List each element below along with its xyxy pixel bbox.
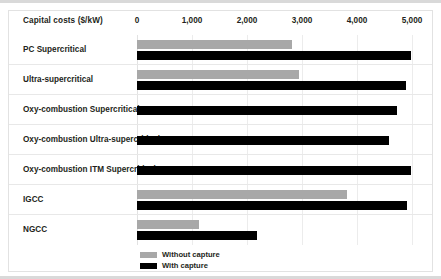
legend-swatch-icon [140, 263, 157, 269]
chart-row: Ultra-supercritical [9, 65, 432, 95]
chart-row: NGCC [9, 215, 432, 245]
row-bars [9, 185, 432, 214]
chart-row: Oxy-combustion Supercritical [9, 95, 432, 125]
capital-costs-bar-chart: Capital costs ($/kW) 01,0002,0003,0004,0… [0, 0, 441, 279]
x-tick-label: 2,000 [237, 16, 258, 25]
x-tick-label: 3,000 [292, 16, 313, 25]
legend-label: Without capture [162, 250, 220, 259]
chart-header: Capital costs ($/kW) 01,0002,0003,0004,0… [9, 11, 432, 35]
chart-legend: Without capture With capture [140, 250, 220, 270]
bar-without-capture [137, 220, 199, 229]
bar-without-capture [137, 40, 292, 49]
legend-item-without-capture: Without capture [140, 250, 220, 259]
bar-with-capture [137, 231, 257, 240]
chart-row: Oxy-combustion Ultra-supercritical [9, 125, 432, 155]
bar-with-capture [137, 106, 397, 115]
x-axis-title: Capital costs ($/kW) [23, 16, 103, 25]
bar-with-capture [137, 81, 406, 90]
x-tick-label: 0 [135, 16, 140, 25]
row-bars [9, 125, 432, 154]
row-bars [9, 155, 432, 184]
bar-with-capture [137, 166, 411, 175]
row-bars [9, 95, 432, 124]
bar-with-capture [137, 201, 407, 210]
x-tick-label: 4,000 [347, 16, 368, 25]
bar-without-capture [137, 190, 347, 199]
row-bars [9, 65, 432, 94]
plot-area: PC SupercriticalUltra-supercriticalOxy-c… [9, 35, 432, 245]
bar-with-capture [137, 51, 411, 60]
legend-swatch-icon [140, 252, 157, 258]
legend-label: With capture [162, 261, 208, 270]
chart-row: IGCC [9, 185, 432, 215]
row-bars [9, 215, 432, 245]
top-divider [0, 0, 441, 3]
bar-without-capture [137, 70, 299, 79]
chart-row: Oxy-combustion ITM Supercritical [9, 155, 432, 185]
bar-with-capture [137, 136, 389, 145]
row-bars [9, 35, 432, 64]
legend-item-with-capture: With capture [140, 261, 220, 270]
x-tick-label: 1,000 [182, 16, 203, 25]
chart-row: PC Supercritical [9, 35, 432, 65]
x-tick-label: 5,000 [402, 16, 423, 25]
